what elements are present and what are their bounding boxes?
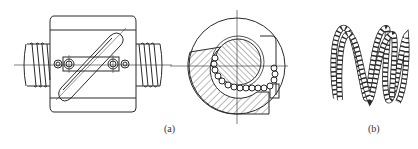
ball-chain-path [333, 28, 406, 102]
ball-screw-diagram [0, 0, 418, 149]
bolts [54, 55, 129, 73]
panel-label-a: (a) [164, 123, 175, 134]
front-view [14, 16, 172, 112]
panel-label-b: (b) [368, 123, 380, 134]
cross-section-view [170, 10, 288, 124]
